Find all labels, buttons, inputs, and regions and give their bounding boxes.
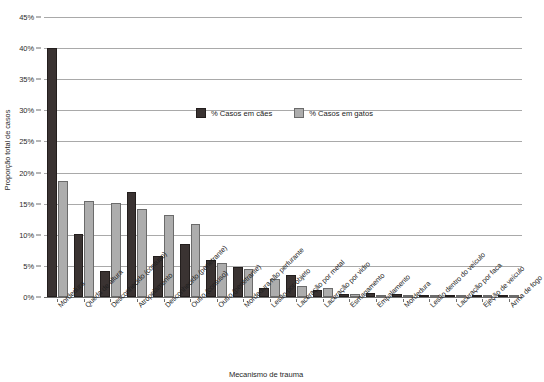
bar-group bbox=[100, 17, 121, 297]
y-tick-label-10: 10% bbox=[19, 230, 34, 239]
y-tick-mark-40 bbox=[36, 48, 41, 49]
bar-cats bbox=[84, 201, 94, 297]
bar-group bbox=[445, 17, 466, 297]
y-tick-label-30: 30% bbox=[19, 106, 34, 115]
bar-group bbox=[392, 17, 413, 297]
bar-group bbox=[259, 17, 280, 297]
bar-group bbox=[47, 17, 68, 297]
y-tick-label-40: 40% bbox=[19, 44, 34, 53]
y-tick-mark-5 bbox=[36, 265, 41, 266]
bar-group bbox=[339, 17, 360, 297]
legend: % Casos em cães % Casos em gatos bbox=[196, 108, 373, 118]
bar-cats bbox=[58, 181, 68, 297]
y-tick-label-15: 15% bbox=[19, 199, 34, 208]
y-tick-label-20: 20% bbox=[19, 168, 34, 177]
bar-dogs bbox=[47, 48, 57, 297]
legend-label-cats: % Casos em gatos bbox=[309, 109, 373, 118]
legend-label-dogs: % Casos em cães bbox=[211, 109, 272, 118]
x-axis-labels: MordeduraQueda de alturaDesconhecido (co… bbox=[44, 299, 522, 369]
bar-group bbox=[127, 17, 148, 297]
bar-group bbox=[233, 17, 254, 297]
y-tick-label-5: 5% bbox=[23, 261, 34, 270]
plot-area bbox=[44, 17, 522, 297]
y-tick-mark-45 bbox=[36, 17, 41, 18]
y-axis-title: Proporção total de casos bbox=[3, 50, 14, 250]
y-tick-mark-25 bbox=[36, 141, 41, 142]
legend-item-dogs: % Casos em cães bbox=[196, 108, 272, 118]
y-tick-mark-0 bbox=[36, 297, 41, 298]
bar-group bbox=[419, 17, 440, 297]
x-axis-title: Mecanismo de trauma bbox=[0, 370, 532, 379]
legend-item-cats: % Casos em gatos bbox=[294, 108, 373, 118]
y-tick-mark-15 bbox=[36, 203, 41, 204]
y-tick-mark-10 bbox=[36, 234, 41, 235]
y-tick-mark-20 bbox=[36, 172, 41, 173]
bar-group bbox=[313, 17, 334, 297]
legend-swatch-dogs-icon bbox=[196, 108, 206, 118]
y-tick-mark-35 bbox=[36, 79, 41, 80]
bar-group bbox=[366, 17, 387, 297]
legend-swatch-cats-icon bbox=[294, 108, 304, 118]
bar-group bbox=[498, 17, 519, 297]
y-tick-label-0: 0% bbox=[23, 293, 34, 302]
y-tick-label-35: 35% bbox=[19, 75, 34, 84]
y-tick-label-25: 25% bbox=[19, 137, 34, 146]
bar-group bbox=[180, 17, 201, 297]
y-tick-label-45: 45% bbox=[19, 13, 34, 22]
bar-group bbox=[74, 17, 95, 297]
y-tick-mark-30 bbox=[36, 110, 41, 111]
